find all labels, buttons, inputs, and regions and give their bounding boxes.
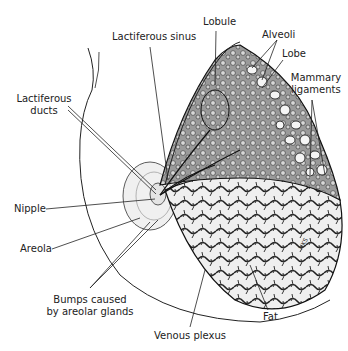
label-bumps-areolar-glands: Bumps caused by areolar glands bbox=[40, 294, 140, 318]
label-areola: Areola bbox=[20, 243, 52, 255]
label-lobule: Lobule bbox=[203, 16, 236, 28]
label-lactiferous-ducts-line1: Lactiferous bbox=[12, 93, 76, 105]
label-lactiferous-ducts-line2: ducts bbox=[12, 105, 76, 117]
label-fat: Fat bbox=[263, 311, 278, 323]
label-mammary-ligaments-line2: ligaments bbox=[288, 84, 344, 96]
label-mammary-ligaments-line1: Mammary bbox=[288, 72, 344, 84]
label-mammary-ligaments: Mammary ligaments bbox=[288, 72, 344, 96]
label-lobe: Lobe bbox=[282, 48, 306, 60]
label-nipple: Nipple bbox=[14, 203, 46, 215]
label-bumps-line1: Bumps caused bbox=[40, 294, 140, 306]
label-lactiferous-sinus: Lactiferous sinus bbox=[112, 31, 196, 43]
label-lactiferous-ducts: Lactiferous ducts bbox=[12, 93, 76, 117]
label-alveoli: Alveoli bbox=[262, 29, 295, 41]
label-bumps-line2: by areolar glands bbox=[40, 306, 140, 318]
breast-anatomy-diagram: NKS Lobule Lactiferous sinus Alveoli Lob… bbox=[0, 0, 348, 351]
label-venous-plexus: Venous plexus bbox=[154, 330, 226, 342]
